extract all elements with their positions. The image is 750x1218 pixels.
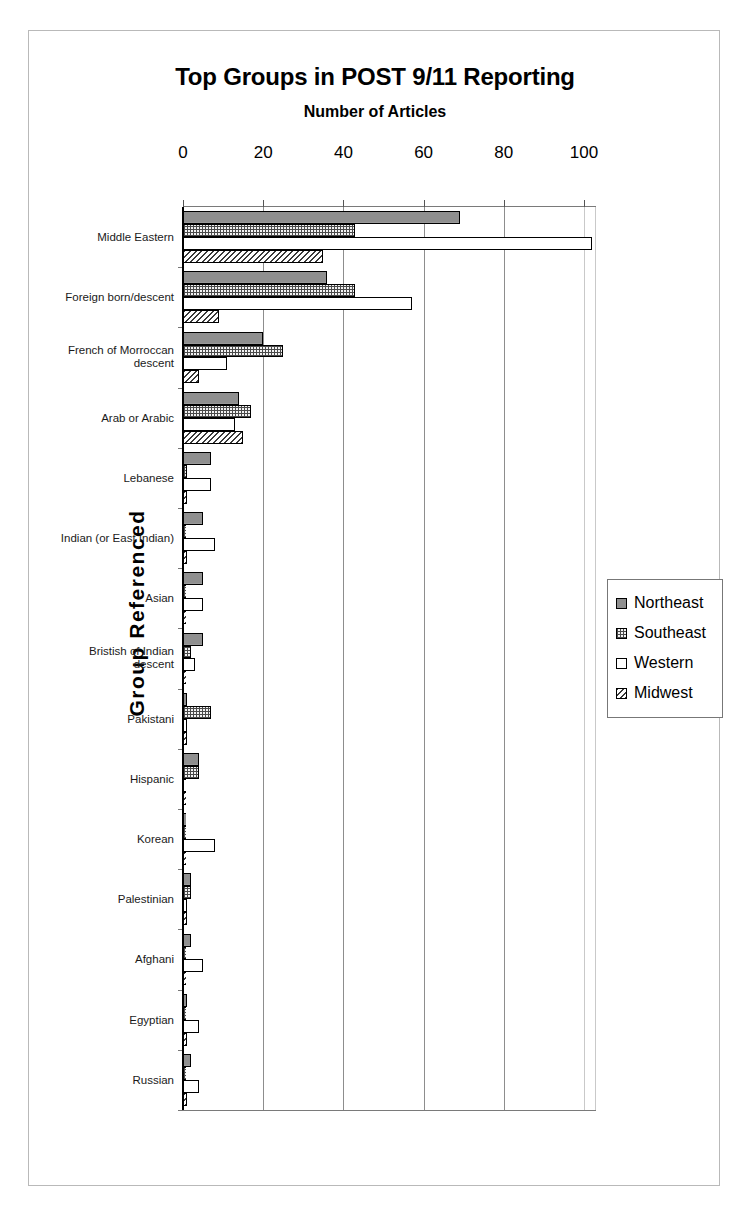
bar-western[interactable] xyxy=(183,1020,199,1033)
bar-midwest[interactable] xyxy=(183,611,186,624)
bar-western[interactable] xyxy=(183,719,187,732)
bar-western[interactable] xyxy=(183,959,203,972)
x-tick-mark xyxy=(183,200,184,207)
bar-northeast[interactable] xyxy=(183,332,263,345)
bar-southeast[interactable] xyxy=(183,284,355,297)
bar-midwest[interactable] xyxy=(183,972,186,985)
bar-northeast[interactable] xyxy=(183,392,239,405)
bar-southeast[interactable] xyxy=(183,766,199,779)
bar-midwest[interactable] xyxy=(183,250,323,263)
category-label: Palestinian xyxy=(36,893,174,906)
bar-western[interactable] xyxy=(183,779,186,792)
bar-northeast[interactable] xyxy=(183,873,191,886)
bar-southeast[interactable] xyxy=(183,1067,186,1080)
bar-southeast[interactable] xyxy=(183,465,187,478)
x-tick-mark xyxy=(424,200,425,207)
bar-western[interactable] xyxy=(183,598,203,611)
x-tick-label: 20 xyxy=(254,143,273,163)
legend-item-northeast[interactable]: Northeast xyxy=(616,588,718,618)
x-tick-label: 0 xyxy=(178,143,187,163)
x-tick-mark xyxy=(263,200,264,207)
category-label: Pakistani xyxy=(36,712,174,725)
category-label: Lebanese xyxy=(36,471,174,484)
bar-southeast[interactable] xyxy=(183,886,191,899)
bar-western[interactable] xyxy=(183,839,215,852)
plot-top-border xyxy=(183,206,596,207)
bar-northeast[interactable] xyxy=(183,211,460,224)
category-label: Asian xyxy=(36,592,174,605)
category-row: Pakistani xyxy=(183,689,584,749)
bar-western[interactable] xyxy=(183,538,215,551)
category-row: Arab or Arabic xyxy=(183,388,584,448)
y-tick-mark xyxy=(178,1050,183,1051)
x-axis-tick-labels: 020406080100 xyxy=(29,143,721,165)
bar-northeast[interactable] xyxy=(183,572,203,585)
legend-swatch-icon xyxy=(616,688,627,699)
legend-item-western[interactable]: Western xyxy=(616,648,718,678)
y-tick-mark xyxy=(178,568,183,569)
bar-midwest[interactable] xyxy=(183,1093,187,1106)
bar-midwest[interactable] xyxy=(183,912,187,925)
category-label: Bristish of Indian descent xyxy=(36,645,174,671)
y-tick-mark xyxy=(178,628,183,629)
bar-western[interactable] xyxy=(183,237,592,250)
x-tick-label: 40 xyxy=(334,143,353,163)
bar-northeast[interactable] xyxy=(183,813,186,826)
bar-southeast[interactable] xyxy=(183,345,283,358)
bar-western[interactable] xyxy=(183,357,227,370)
bar-midwest[interactable] xyxy=(183,370,199,383)
category-label: Korean xyxy=(36,833,174,846)
category-row: Palestinian xyxy=(183,869,584,929)
bar-western[interactable] xyxy=(183,418,235,431)
category-row: Afghani xyxy=(183,929,584,989)
bar-midwest[interactable] xyxy=(183,491,187,504)
bar-southeast[interactable] xyxy=(183,706,211,719)
bar-northeast[interactable] xyxy=(183,753,199,766)
bar-northeast[interactable] xyxy=(183,452,211,465)
bar-northeast[interactable] xyxy=(183,271,327,284)
category-label: French of Morroccan descent xyxy=(36,344,174,370)
legend-item-southeast[interactable]: Southeast xyxy=(616,618,718,648)
bar-western[interactable] xyxy=(183,297,412,310)
plot-area: Middle EasternForeign born/descentFrench… xyxy=(183,207,584,1110)
bar-southeast[interactable] xyxy=(183,1007,186,1020)
bar-northeast[interactable] xyxy=(183,1054,191,1067)
bar-midwest[interactable] xyxy=(183,732,187,745)
bar-southeast[interactable] xyxy=(183,224,355,237)
legend-item-midwest[interactable]: Midwest xyxy=(616,678,718,708)
bar-southeast[interactable] xyxy=(183,947,186,960)
bar-western[interactable] xyxy=(183,658,195,671)
legend-swatch-icon xyxy=(616,628,627,639)
bar-southeast[interactable] xyxy=(183,585,186,598)
bar-southeast[interactable] xyxy=(183,525,186,538)
bar-western[interactable] xyxy=(183,899,187,912)
bar-midwest[interactable] xyxy=(183,852,186,865)
bar-midwest[interactable] xyxy=(183,671,186,684)
bar-southeast[interactable] xyxy=(183,826,186,839)
plot-bottom-border xyxy=(183,1110,596,1111)
bar-southeast[interactable] xyxy=(183,405,251,418)
bar-western[interactable] xyxy=(183,478,211,491)
bar-midwest[interactable] xyxy=(183,1033,187,1046)
gridline xyxy=(504,207,505,1110)
x-tick-label: 100 xyxy=(570,143,598,163)
y-tick-mark xyxy=(178,508,183,509)
category-row: Lebanese xyxy=(183,448,584,508)
category-row: French of Morroccan descent xyxy=(183,327,584,387)
bar-southeast[interactable] xyxy=(183,646,191,659)
bar-midwest[interactable] xyxy=(183,551,187,564)
legend-label: Northeast xyxy=(634,594,703,612)
bar-midwest[interactable] xyxy=(183,792,186,805)
gridline xyxy=(343,207,344,1110)
bar-northeast[interactable] xyxy=(183,633,203,646)
bar-midwest[interactable] xyxy=(183,431,243,444)
category-label: Hispanic xyxy=(36,772,174,785)
bar-midwest[interactable] xyxy=(183,310,219,323)
bar-northeast[interactable] xyxy=(183,693,187,706)
bar-northeast[interactable] xyxy=(183,994,187,1007)
legend-swatch-icon xyxy=(616,658,627,669)
bar-northeast[interactable] xyxy=(183,934,191,947)
category-row: Bristish of Indian descent xyxy=(183,628,584,688)
bar-western[interactable] xyxy=(183,1080,199,1093)
bar-northeast[interactable] xyxy=(183,512,203,525)
